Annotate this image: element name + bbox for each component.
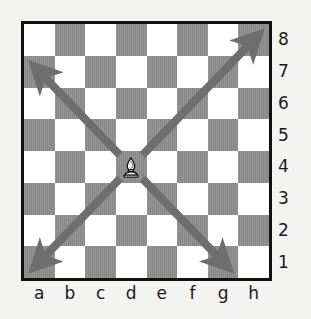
file-labels: abcdefgh: [24, 285, 269, 313]
file-label-b: b: [55, 285, 86, 313]
square-e7[interactable]: [147, 56, 178, 88]
square-d3[interactable]: [116, 183, 147, 215]
rank-label-1: 1: [278, 246, 306, 278]
file-label-g: g: [208, 285, 239, 313]
square-a4[interactable]: [24, 151, 55, 183]
square-c8[interactable]: [85, 24, 116, 56]
square-b1[interactable]: [55, 246, 86, 278]
square-a8[interactable]: [24, 24, 55, 56]
file-label-e: e: [147, 285, 178, 313]
rank-labels: 87654321: [278, 24, 306, 278]
square-d7[interactable]: [116, 56, 147, 88]
square-f4[interactable]: [177, 151, 208, 183]
square-a2[interactable]: [24, 215, 55, 247]
square-b3[interactable]: [55, 183, 86, 215]
file-label-a: a: [24, 285, 55, 313]
square-b8[interactable]: [55, 24, 86, 56]
square-c4[interactable]: [85, 151, 116, 183]
square-h2[interactable]: [238, 215, 269, 247]
square-b2[interactable]: [55, 215, 86, 247]
square-a5[interactable]: [24, 119, 55, 151]
square-a6[interactable]: [24, 88, 55, 120]
chess-diagram: abcdefgh 87654321: [0, 0, 311, 319]
square-a7[interactable]: [24, 56, 55, 88]
square-e5[interactable]: [147, 119, 178, 151]
square-e2[interactable]: [147, 215, 178, 247]
file-label-h: h: [238, 285, 269, 313]
square-g8[interactable]: [208, 24, 239, 56]
square-b6[interactable]: [55, 88, 86, 120]
square-c6[interactable]: [85, 88, 116, 120]
square-d2[interactable]: [116, 215, 147, 247]
square-a3[interactable]: [24, 183, 55, 215]
square-f3[interactable]: [177, 183, 208, 215]
square-h7[interactable]: [238, 56, 269, 88]
square-b5[interactable]: [55, 119, 86, 151]
rank-label-5: 5: [278, 119, 306, 151]
square-h1[interactable]: [238, 246, 269, 278]
square-d6[interactable]: [116, 88, 147, 120]
square-g5[interactable]: [208, 119, 239, 151]
square-h3[interactable]: [238, 183, 269, 215]
square-g6[interactable]: [208, 88, 239, 120]
square-c3[interactable]: [85, 183, 116, 215]
board-grid: [24, 24, 269, 278]
square-g1[interactable]: [208, 246, 239, 278]
square-d1[interactable]: [116, 246, 147, 278]
square-f6[interactable]: [177, 88, 208, 120]
rank-label-4: 4: [278, 151, 306, 183]
square-h6[interactable]: [238, 88, 269, 120]
square-e8[interactable]: [147, 24, 178, 56]
rank-label-6: 6: [278, 88, 306, 120]
square-d4[interactable]: [116, 151, 147, 183]
square-d8[interactable]: [116, 24, 147, 56]
square-g7[interactable]: [208, 56, 239, 88]
square-d5[interactable]: [116, 119, 147, 151]
rank-label-3: 3: [278, 183, 306, 215]
square-e1[interactable]: [147, 246, 178, 278]
square-b4[interactable]: [55, 151, 86, 183]
file-label-c: c: [85, 285, 116, 313]
square-f7[interactable]: [177, 56, 208, 88]
file-label-f: f: [177, 285, 208, 313]
square-e4[interactable]: [147, 151, 178, 183]
square-f8[interactable]: [177, 24, 208, 56]
square-g4[interactable]: [208, 151, 239, 183]
square-g3[interactable]: [208, 183, 239, 215]
square-e6[interactable]: [147, 88, 178, 120]
chess-board[interactable]: [21, 21, 272, 281]
square-h5[interactable]: [238, 119, 269, 151]
rank-label-2: 2: [278, 215, 306, 247]
square-f5[interactable]: [177, 119, 208, 151]
square-e3[interactable]: [147, 183, 178, 215]
square-g2[interactable]: [208, 215, 239, 247]
square-f1[interactable]: [177, 246, 208, 278]
square-c1[interactable]: [85, 246, 116, 278]
square-c7[interactable]: [85, 56, 116, 88]
square-f2[interactable]: [177, 215, 208, 247]
rank-label-7: 7: [278, 56, 306, 88]
file-label-d: d: [116, 285, 147, 313]
square-h8[interactable]: [238, 24, 269, 56]
square-c2[interactable]: [85, 215, 116, 247]
square-b7[interactable]: [55, 56, 86, 88]
rank-label-8: 8: [278, 24, 306, 56]
square-a1[interactable]: [24, 246, 55, 278]
square-h4[interactable]: [238, 151, 269, 183]
square-c5[interactable]: [85, 119, 116, 151]
